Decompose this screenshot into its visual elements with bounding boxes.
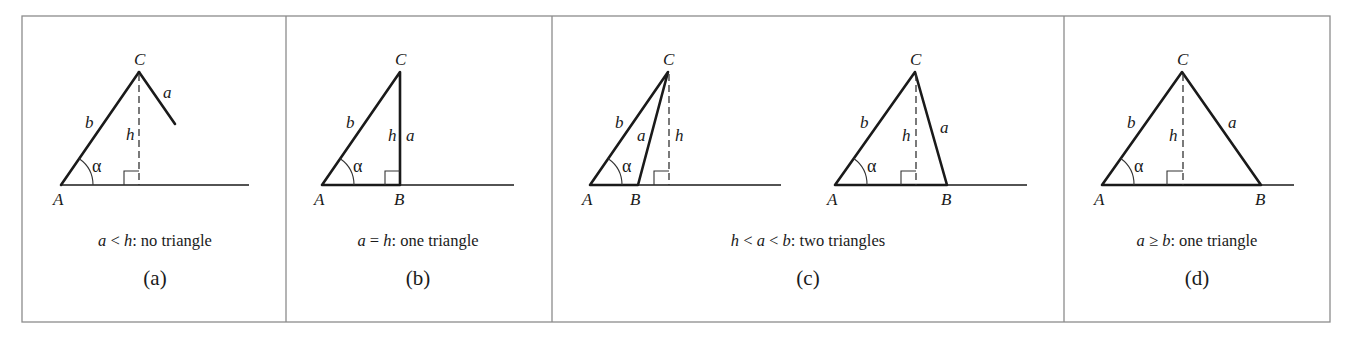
side-label-b: b [615, 113, 624, 132]
ambiguous-case-figure: A C b a h α a < h: no triangle (a) A B C… [0, 0, 1351, 339]
vertex-label-B: B [394, 190, 405, 209]
vertex-label-C: C [910, 50, 922, 69]
sub-label: (c) [796, 266, 819, 290]
angle-label-alpha: α [92, 156, 102, 176]
caption: a ≥ b: one triangle [1137, 231, 1258, 250]
angle-arc [1121, 159, 1134, 186]
sub-label: (b) [406, 266, 431, 290]
triangle-ABC [835, 72, 947, 185]
panel-d: A B C b a h α a ≥ b: one triangle (d) [1093, 50, 1294, 290]
vertex-label-B: B [630, 190, 641, 209]
angle-arc [340, 159, 354, 185]
side-label-a: a [163, 83, 172, 102]
side-label-b: b [85, 113, 94, 132]
side-label-a: a [637, 126, 646, 145]
sub-label: (a) [143, 266, 166, 290]
vertex-label-A: A [1093, 190, 1105, 209]
side-label-a: a [1228, 113, 1237, 132]
side-label-h: h [388, 126, 397, 145]
angle-arc [79, 159, 93, 185]
side-label-b: b [1127, 113, 1136, 132]
vertex-label-A: A [52, 190, 64, 209]
vertex-label-C: C [395, 50, 407, 69]
angle-label-alpha: α [1134, 156, 1144, 176]
angle-label-alpha: α [353, 156, 363, 176]
panel-c: A B C b a h α A B C b a h α h < a < b: t… [581, 50, 1027, 290]
angle-arc [854, 159, 867, 186]
right-angle-mark [1167, 171, 1183, 185]
vertex-label-C: C [663, 50, 675, 69]
right-angle-mark [385, 171, 400, 185]
angle-label-alpha: α [867, 156, 877, 176]
side-label-a: a [940, 118, 949, 137]
triangle-obtuse: A B C b a h α [581, 50, 781, 209]
caption: a = h: one triangle [357, 231, 478, 250]
angle-label-alpha: α [622, 156, 632, 176]
side-label-h: h [675, 126, 684, 145]
side-label-a: a [406, 126, 415, 145]
vertex-label-C: C [1177, 50, 1189, 69]
vertex-label-A: A [826, 190, 838, 209]
vertex-label-B: B [1255, 190, 1266, 209]
sub-label: (d) [1185, 266, 1210, 290]
vertex-label-A: A [581, 190, 593, 209]
side-label-h: h [1169, 126, 1178, 145]
vertex-label-A: A [313, 190, 325, 209]
caption: a < h: no triangle [98, 231, 212, 250]
side-label-b: b [860, 113, 869, 132]
vertex-label-B: B [941, 190, 952, 209]
triangle-acute: A B C b a h α [826, 50, 1027, 209]
triangle-ABC [1102, 72, 1261, 185]
panel-a: A C b a h α a < h: no triangle (a) [52, 50, 249, 290]
side-label-b: b [346, 113, 355, 132]
side-label-h: h [126, 125, 135, 144]
angle-arc [608, 159, 622, 185]
caption: h < a < b: two triangles [731, 231, 885, 250]
right-angle-mark [124, 171, 139, 185]
side-label-h: h [902, 126, 911, 145]
right-angle-mark [654, 171, 669, 185]
panel-b: A B C b a h α a = h: one triangle (b) [313, 50, 514, 290]
right-angle-mark [901, 171, 916, 185]
vertex-label-C: C [134, 50, 146, 69]
